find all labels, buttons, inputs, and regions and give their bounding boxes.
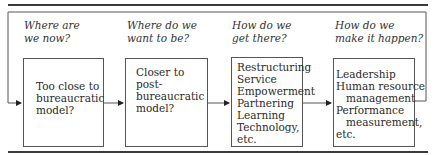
box-line: management: [336, 92, 425, 104]
question-where-are-we-now: Where are we now?: [24, 19, 80, 45]
question-where-do-we-want-to-be: Where do we want to be?: [127, 19, 197, 45]
box-line: etc.: [237, 133, 315, 145]
box-line: Leadership: [336, 68, 425, 80]
box-line: Partnering: [237, 97, 315, 109]
box-line: Empowerment: [237, 85, 315, 97]
box-current-state: Too close to bureaucratic model?: [23, 58, 104, 147]
box-desired-state: Closer to post- bureaucratic model?: [125, 58, 208, 147]
question-how-do-we-get-there: How do we get there?: [232, 19, 291, 45]
question-how-do-we-make-it-happen: How do we make it happen?: [335, 19, 423, 45]
box-line: Closer to: [136, 66, 204, 78]
box-line: bureaucratic: [36, 92, 104, 104]
box-line: Service: [237, 73, 315, 85]
question-line: Where do we: [127, 19, 197, 32]
box-line: model?: [136, 102, 204, 114]
question-line: we now?: [24, 32, 80, 45]
box-line: model?: [36, 104, 104, 116]
box-line: Performance: [336, 104, 425, 116]
box-line: Restructuring: [237, 61, 315, 73]
box-line: Human resource: [336, 80, 425, 92]
box-enablers: Leadership Human resource management Per…: [333, 58, 415, 147]
box-line: Too close to: [36, 80, 104, 92]
box-line: bureaucratic: [136, 90, 204, 102]
question-line: make it happen?: [335, 32, 423, 45]
box-line: Learning: [237, 109, 315, 121]
box-strategies: Restructuring Service Empowerment Partne…: [231, 57, 303, 147]
box-line: Technology,: [237, 121, 315, 133]
question-line: want to be?: [127, 32, 197, 45]
question-line: How do we: [335, 19, 423, 32]
box-line: etc.: [336, 128, 425, 140]
question-line: get there?: [232, 32, 291, 45]
box-line: post-: [136, 78, 204, 90]
box-line: measurement,: [336, 116, 425, 128]
question-line: How do we: [232, 19, 291, 32]
question-line: Where are: [24, 19, 80, 32]
